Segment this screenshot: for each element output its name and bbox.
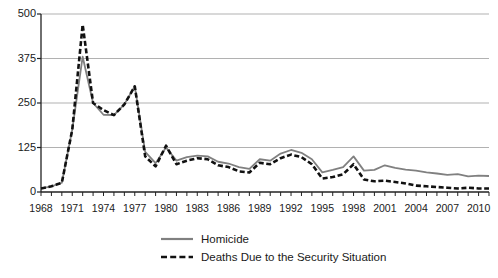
x-tick-label-1968: 1968 (29, 202, 52, 214)
legend-label-homicide: Homicide (201, 233, 249, 246)
y-tick-label-125: 125 (2, 142, 36, 153)
x-tick-label-2007: 2007 (436, 202, 459, 214)
chart-figure: 0125250375500 19681971197419771980198319… (0, 0, 498, 278)
x-tick-label-2004: 2004 (404, 202, 427, 214)
x-tick-label-2001: 2001 (373, 202, 396, 214)
x-tick-label-1980: 1980 (154, 202, 177, 214)
x-tick-label-1983: 1983 (186, 202, 209, 214)
chart-legend: Homicide Deaths Due to the Security Situ… (160, 231, 490, 267)
x-tick-label-2010: 2010 (467, 202, 490, 214)
solid-line-swatch (160, 233, 194, 245)
y-tick-label-0: 0 (2, 186, 36, 197)
x-axis-tick-labels: 1968197119741977198019831986198919921995… (0, 202, 498, 220)
y-tick-label-375: 375 (2, 53, 36, 64)
x-tick-label-1971: 1971 (61, 202, 84, 214)
x-tick-label-1977: 1977 (123, 202, 146, 214)
plot-area (0, 0, 498, 225)
legend-item-homicide: Homicide (160, 231, 490, 247)
x-tick-label-1998: 1998 (342, 202, 365, 214)
series-line-homicide (41, 57, 489, 189)
x-tick-label-1986: 1986 (217, 202, 240, 214)
x-tick-label-1974: 1974 (92, 202, 115, 214)
dashed-line-swatch (160, 251, 194, 263)
series-line-security-deaths (41, 25, 489, 189)
caption-strip (0, 268, 498, 278)
y-tick-label-250: 250 (2, 97, 36, 108)
x-tick-label-1989: 1989 (248, 202, 271, 214)
chart-canvas (0, 0, 498, 225)
y-tick-label-500: 500 (2, 8, 36, 19)
x-tick-label-1995: 1995 (311, 202, 334, 214)
y-axis-tick-labels: 0125250375500 (0, 0, 36, 200)
legend-item-security-deaths: Deaths Due to the Security Situation (160, 249, 490, 265)
x-tick-label-1992: 1992 (279, 202, 302, 214)
legend-label-security-deaths: Deaths Due to the Security Situation (201, 251, 386, 264)
